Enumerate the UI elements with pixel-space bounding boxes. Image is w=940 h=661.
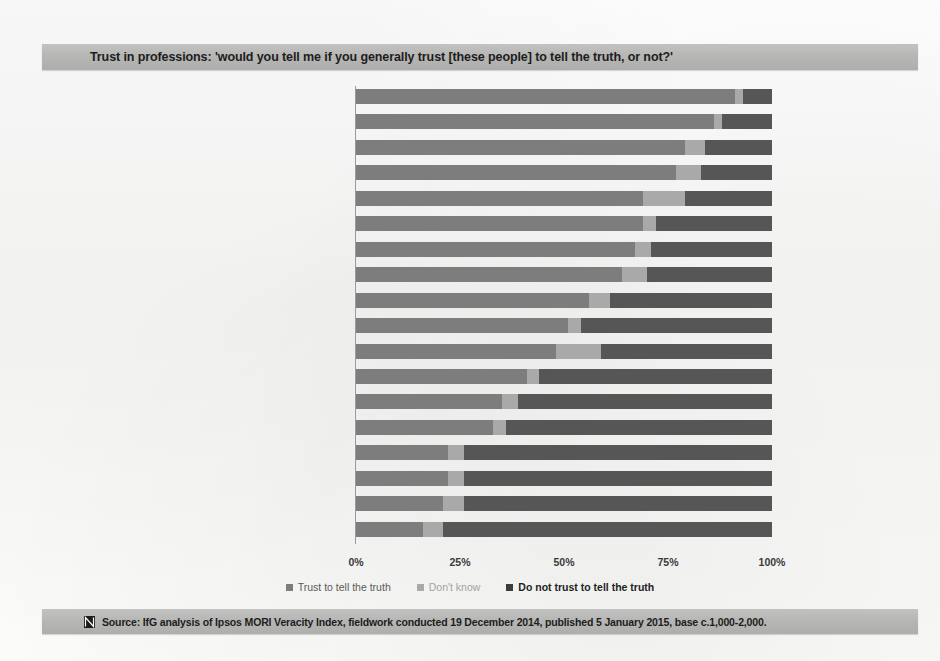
- bar-segment-distrust[interactable]: [518, 394, 772, 409]
- bar-segment-trust[interactable]: [356, 267, 622, 282]
- bar-segment-trust[interactable]: [356, 140, 685, 155]
- chart-row: Journalists: [0, 440, 940, 465]
- bar-segment-distrust[interactable]: [647, 267, 772, 282]
- bar-segment-distrust[interactable]: [464, 496, 772, 511]
- chart-row: Civil servants: [0, 288, 940, 313]
- bar-segment-dont-know[interactable]: [556, 344, 602, 359]
- stacked-bar[interactable]: [356, 394, 772, 409]
- bar-segment-dont-know[interactable]: [443, 496, 464, 511]
- bar-segment-trust[interactable]: [356, 318, 568, 333]
- bar-segment-trust[interactable]: [356, 471, 448, 486]
- source-band: Source: IfG analysis of Ipsos MORI Verac…: [42, 609, 918, 634]
- bar-segment-trust[interactable]: [356, 420, 493, 435]
- bar-segment-trust[interactable]: [356, 89, 735, 104]
- bar-segment-trust[interactable]: [356, 114, 714, 129]
- bar-segment-distrust[interactable]: [443, 522, 772, 537]
- stacked-bar[interactable]: [356, 420, 772, 435]
- stacked-bar[interactable]: [356, 496, 772, 511]
- bar-segment-distrust[interactable]: [685, 191, 772, 206]
- page-title: Trust in professions: 'would you tell me…: [42, 50, 673, 64]
- chart-row: Doctors: [0, 84, 940, 109]
- stacked-bar[interactable]: [356, 344, 772, 359]
- bar-segment-trust[interactable]: [356, 216, 643, 231]
- chart-row: Teachers: [0, 109, 940, 134]
- x-axis-tick-label: 25%: [449, 556, 470, 568]
- bar-segment-dont-know[interactable]: [643, 216, 655, 231]
- bar-segment-dont-know[interactable]: [448, 471, 465, 486]
- bar-segment-distrust[interactable]: [651, 242, 772, 257]
- bar-segment-distrust[interactable]: [601, 344, 772, 359]
- bar-segment-dont-know[interactable]: [676, 165, 701, 180]
- bar-segment-distrust[interactable]: [701, 165, 772, 180]
- stacked-bar[interactable]: [356, 216, 772, 231]
- stacked-bar[interactable]: [356, 242, 772, 257]
- bar-segment-trust[interactable]: [356, 369, 527, 384]
- chart-title-band: Trust in professions: 'would you tell me…: [42, 44, 918, 70]
- legend-item[interactable]: Don't know: [417, 581, 481, 593]
- stacked-bar[interactable]: [356, 369, 772, 384]
- stacked-bar[interactable]: [356, 191, 772, 206]
- legend-item[interactable]: Trust to tell the truth: [286, 581, 391, 593]
- chart-row: Managers in the NHS: [0, 339, 940, 364]
- chart-row: TV newsreaders: [0, 211, 940, 236]
- stacked-bar[interactable]: [356, 445, 772, 460]
- x-axis-tick-label: 0%: [348, 556, 363, 568]
- bar-segment-trust[interactable]: [356, 496, 443, 511]
- bar-segment-dont-know[interactable]: [622, 267, 647, 282]
- bar-segment-dont-know[interactable]: [423, 522, 444, 537]
- bar-segment-trust[interactable]: [356, 293, 589, 308]
- stacked-bar[interactable]: [356, 471, 772, 486]
- bar-segment-dont-know[interactable]: [568, 318, 580, 333]
- stacked-bar[interactable]: [356, 140, 772, 155]
- stacked-bar[interactable]: [356, 293, 772, 308]
- stacked-bar[interactable]: [356, 165, 772, 180]
- x-axis-tick-label: 75%: [657, 556, 678, 568]
- chart-row: The police: [0, 237, 940, 262]
- x-axis: 0%25%50%75%100%: [0, 556, 940, 574]
- bar-segment-distrust[interactable]: [705, 140, 772, 155]
- x-axis-tick-label: 50%: [553, 556, 574, 568]
- bar-segment-dont-know[interactable]: [589, 293, 610, 308]
- bar-segment-distrust[interactable]: [506, 420, 772, 435]
- stacked-bar[interactable]: [356, 318, 772, 333]
- bar-segment-distrust[interactable]: [539, 369, 772, 384]
- bar-segment-dont-know[interactable]: [685, 140, 706, 155]
- legend-swatch-icon: [286, 584, 293, 591]
- x-axis-tick-label: 100%: [759, 556, 786, 568]
- bar-segment-dont-know[interactable]: [448, 445, 465, 460]
- stacked-bar[interactable]: [356, 522, 772, 537]
- bar-segment-distrust[interactable]: [464, 471, 772, 486]
- chart-row: Ordinary man/woman in the street: [0, 262, 940, 287]
- legend-swatch-icon: [417, 584, 424, 591]
- bar-segment-distrust[interactable]: [610, 293, 772, 308]
- bar-segment-trust[interactable]: [356, 344, 556, 359]
- stacked-bar[interactable]: [356, 267, 772, 282]
- stacked-bar[interactable]: [356, 114, 772, 129]
- chart-row: Trade Union officials: [0, 364, 940, 389]
- bar-segment-distrust[interactable]: [743, 89, 772, 104]
- bar-segment-trust[interactable]: [356, 522, 423, 537]
- bar-segment-trust[interactable]: [356, 242, 635, 257]
- bar-segment-trust[interactable]: [356, 445, 448, 460]
- bar-segment-dont-know[interactable]: [502, 394, 519, 409]
- bar-segment-trust[interactable]: [356, 165, 676, 180]
- stacked-bar[interactable]: [356, 89, 772, 104]
- chart-row: Scientists: [0, 135, 940, 160]
- bar-segment-distrust[interactable]: [464, 445, 772, 460]
- legend-label: Don't know: [429, 581, 481, 593]
- legend-item[interactable]: Do not trust to tell the truth: [506, 581, 654, 593]
- bar-segment-dont-know[interactable]: [643, 191, 685, 206]
- bar-segment-trust[interactable]: [356, 191, 643, 206]
- bar-segment-dont-know[interactable]: [493, 420, 505, 435]
- chart-legend: Trust to tell the truthDon't knowDo not …: [0, 581, 940, 593]
- bar-segment-trust[interactable]: [356, 394, 502, 409]
- stacked-bar-chart: DoctorsTeachersScientistsJudgesClergy/pr…: [0, 84, 940, 554]
- bar-segment-dont-know[interactable]: [527, 369, 539, 384]
- bar-segment-distrust[interactable]: [656, 216, 772, 231]
- bar-segment-dont-know[interactable]: [735, 89, 743, 104]
- bar-segment-dont-know[interactable]: [635, 242, 652, 257]
- bar-segment-distrust[interactable]: [722, 114, 772, 129]
- bar-segment-distrust[interactable]: [581, 318, 772, 333]
- bar-segment-dont-know[interactable]: [714, 114, 722, 129]
- legend-label: Do not trust to tell the truth: [518, 581, 654, 593]
